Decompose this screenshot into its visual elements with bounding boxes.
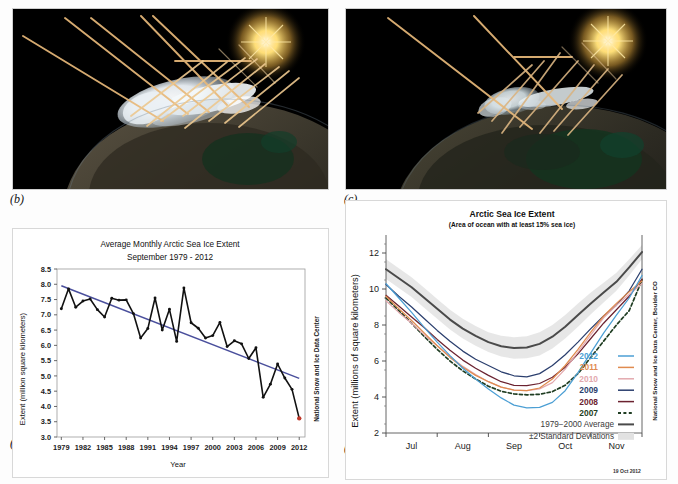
chart-a-x-tick: 2003 bbox=[226, 443, 242, 452]
chart-a-credit: National Snow and Ice Data Center bbox=[313, 316, 320, 422]
chart-d-legend-label: 2012 bbox=[579, 351, 598, 361]
chart-a-x-tick: 2006 bbox=[248, 443, 264, 452]
chart-a-x-tick: 1985 bbox=[96, 443, 112, 452]
chart-d-y-tick: 12 bbox=[369, 248, 379, 258]
chart-d-y-tick: 8 bbox=[374, 320, 379, 330]
panel-c-image bbox=[345, 8, 667, 190]
chart-a-x-tick: 2009 bbox=[269, 443, 285, 452]
chart-d-x-tick: Sep bbox=[506, 441, 522, 451]
chart-a-y-tick: 6.5 bbox=[41, 326, 51, 335]
chart-a-plot-area: 3.03.54.04.55.05.56.06.57.07.58.08.51979… bbox=[41, 265, 308, 452]
chart-a-x-tick: 1991 bbox=[140, 443, 156, 452]
high-albedo-earth-illustration bbox=[13, 9, 328, 189]
average-monthly-arctic-sea-ice-extent-chart: Average Monthly Arctic Sea Ice Extent Se… bbox=[13, 229, 328, 477]
chart-d-x-tick: Aug bbox=[455, 441, 471, 451]
panel-b-image bbox=[12, 8, 329, 190]
chart-a-y-tick: 3.5 bbox=[41, 417, 51, 426]
chart-d-y-tick: 6 bbox=[374, 356, 379, 366]
chart-d-y-tick: 10 bbox=[369, 284, 379, 294]
chart-d-y-axis-label: Extent (millions of square kilometers) bbox=[349, 274, 360, 428]
panel-label-b: (b) bbox=[10, 192, 24, 207]
arctic-sea-ice-extent-seasonal-chart: Arctic Sea Ice Extent (Area of ocean wit… bbox=[346, 201, 666, 479]
chart-a-y-tick: 5.5 bbox=[41, 356, 51, 365]
chart-a-y-tick: 7.5 bbox=[41, 295, 51, 304]
chart-a-x-tick: 2000 bbox=[204, 443, 220, 452]
chart-a-y-tick: 8.0 bbox=[41, 280, 51, 289]
chart-a-y-tick: 3.0 bbox=[41, 433, 51, 442]
chart-d-legend-label: 2009 bbox=[579, 385, 598, 395]
chart-a-x-tick: 1997 bbox=[183, 443, 199, 452]
panel-a-chart: Average Monthly Arctic Sea Ice Extent Se… bbox=[12, 228, 329, 478]
chart-a-y-tick: 4.5 bbox=[41, 387, 51, 396]
figure-root: (b) (c) (a) (d) Average Monthly Arctic S… bbox=[0, 0, 678, 484]
chart-a-y-tick: 4.0 bbox=[41, 402, 51, 411]
panel-d-chart: Arctic Sea Ice Extent (Area of ocean wit… bbox=[345, 200, 667, 480]
chart-d-y-tick: 2 bbox=[374, 428, 379, 438]
chart-a-x-tick: 1994 bbox=[161, 443, 178, 452]
chart-d-legend-label: 2008 bbox=[579, 397, 598, 407]
chart-d-legend-label: 2010 bbox=[579, 374, 598, 384]
chart-d-y-tick: 4 bbox=[374, 392, 379, 402]
chart-a-title: Average Monthly Arctic Sea Ice Extent bbox=[100, 240, 240, 249]
low-albedo-earth-illustration bbox=[346, 9, 666, 189]
chart-d-legend-label: ±2 Standard Deviations bbox=[529, 432, 614, 441]
chart-a-subtitle: September 1979 - 2012 bbox=[127, 253, 213, 262]
chart-d-x-tick: Nov bbox=[608, 441, 625, 451]
chart-d-x-tick: Oct bbox=[558, 441, 573, 451]
chart-d-title: Arctic Sea Ice Extent bbox=[469, 209, 554, 219]
chart-d-credit: National Snow and Ice Data Center, Bould… bbox=[651, 281, 658, 421]
chart-a-x-tick: 1988 bbox=[118, 443, 134, 452]
chart-d-x-tick: Jul bbox=[406, 441, 418, 451]
chart-d-legend-label: 1979−2000 Average bbox=[541, 420, 615, 429]
chart-a-y-tick: 5.0 bbox=[41, 372, 51, 381]
chart-a-y-tick: 6.0 bbox=[41, 341, 51, 350]
chart-d-datestamp: 19 Oct 2012 bbox=[613, 468, 641, 474]
chart-a-x-tick: 1982 bbox=[75, 443, 91, 452]
chart-d-legend-label: 2007 bbox=[579, 408, 598, 418]
chart-a-y-tick: 8.5 bbox=[41, 265, 51, 274]
chart-a-x-tick: 2012 bbox=[291, 443, 307, 452]
chart-a-y-axis-label: Extent (million square kilometers) bbox=[18, 312, 27, 425]
chart-d-subtitle: (Area of ocean with at least 15% sea ice… bbox=[449, 221, 575, 229]
chart-d-legend-label: 2011 bbox=[580, 362, 599, 372]
chart-a-x-tick: 1979 bbox=[53, 443, 69, 452]
chart-a-x-axis-label: Year bbox=[170, 460, 186, 469]
chart-a-y-tick: 7.0 bbox=[41, 310, 51, 319]
